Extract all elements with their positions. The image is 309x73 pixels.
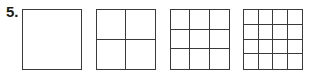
grid-cell xyxy=(126,10,155,40)
grid-cell xyxy=(244,25,259,40)
grid-cell xyxy=(210,10,229,30)
grid-cell xyxy=(259,10,274,25)
grid-cell xyxy=(288,10,303,25)
grid-cell xyxy=(171,30,190,50)
problem-number: 5. xyxy=(6,3,19,20)
grid-cell xyxy=(210,30,229,50)
grid-cell xyxy=(244,10,259,25)
grid-cell xyxy=(288,40,303,55)
grid-cell xyxy=(259,25,274,40)
grid-cell xyxy=(97,40,126,70)
square-grid-2x2 xyxy=(96,9,156,70)
square-grid-4x4 xyxy=(243,9,303,70)
grid-cell xyxy=(244,54,259,69)
grid-cell xyxy=(259,40,274,55)
grid-cell xyxy=(288,25,303,40)
grid-cell xyxy=(273,10,288,25)
grid-cell xyxy=(171,10,190,30)
grid-cell xyxy=(244,40,259,55)
square-grid-3x3 xyxy=(170,9,230,70)
grid-cell xyxy=(190,30,209,50)
grid-cell xyxy=(190,49,209,69)
grid-cell xyxy=(288,54,303,69)
grid-cell xyxy=(273,54,288,69)
square-grid-1x1 xyxy=(22,9,82,70)
grid-cell xyxy=(273,40,288,55)
grid-cell xyxy=(190,10,209,30)
grid-cell xyxy=(126,40,155,70)
grid-cell xyxy=(273,25,288,40)
grid-cell xyxy=(97,10,126,40)
grid-cell xyxy=(210,49,229,69)
grid-cell xyxy=(171,49,190,69)
grid-cell xyxy=(259,54,274,69)
grid-cell xyxy=(23,10,81,69)
